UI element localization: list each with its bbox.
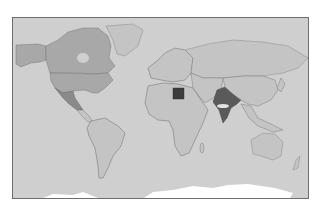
region-sudan [173,88,184,99]
world-map-frame [12,17,309,199]
world-map [13,18,309,199]
hudson-bay [77,53,89,63]
region-madagascar [200,143,204,153]
image-glare [217,104,229,108]
